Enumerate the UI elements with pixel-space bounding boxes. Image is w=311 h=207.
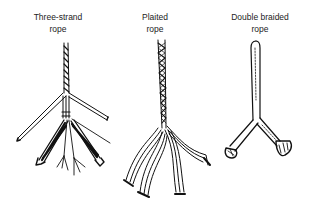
- rope-illustration: [0, 0, 311, 207]
- double-braided-rope-drawing: [225, 41, 291, 158]
- plaited-rope-drawing: [124, 40, 210, 197]
- three-strand-rope-drawing: [17, 43, 110, 175]
